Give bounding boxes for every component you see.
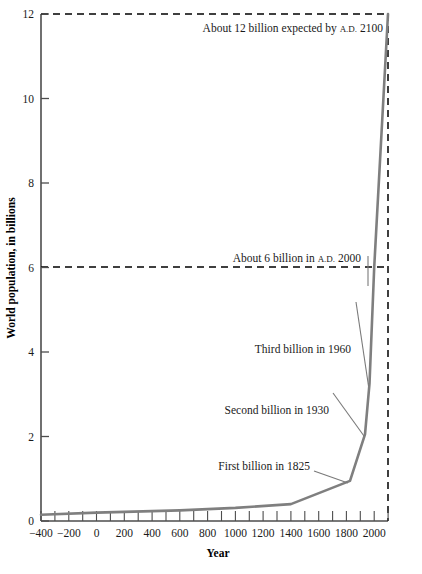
leader-line-third-billion xyxy=(356,302,369,386)
y-axis-ticks xyxy=(41,14,49,521)
annotation-six-billion-suffix: 2000 xyxy=(335,252,361,264)
y-tick-label-6: 6 xyxy=(28,262,34,274)
y-tick-label-4: 4 xyxy=(28,346,34,358)
world-population-curve xyxy=(41,14,388,515)
annotation-twelve-billion-prefix: About 12 billion expected by xyxy=(203,22,340,35)
leader-line-first-billion xyxy=(314,471,348,483)
x-tick-label-1400: 1400 xyxy=(279,527,302,539)
leader-line-second-billion xyxy=(333,393,364,436)
y-tick-label-0: 0 xyxy=(28,515,34,527)
y-tick-label-12: 12 xyxy=(23,8,35,20)
chart-svg: 12 10 8 6 4 2 0 xyxy=(0,0,422,574)
x-tick-label-0: 0 xyxy=(94,527,100,539)
annotation-six-billion-prefix: About 6 billion in xyxy=(233,252,318,264)
y-axis-title: World population, in billions xyxy=(5,197,18,339)
y-tick-label-8: 8 xyxy=(28,177,34,189)
annotation-first-billion: First billion in 1825 xyxy=(218,460,310,472)
x-axis-title: Year xyxy=(207,547,230,559)
x-tick-label-2000: 2000 xyxy=(363,527,386,539)
x-tick-label-400: 400 xyxy=(143,527,161,539)
x-tick-label-1000: 1000 xyxy=(224,527,247,539)
x-tick-label-minus200: −200 xyxy=(57,527,81,539)
x-tick-label-600: 600 xyxy=(171,527,189,539)
x-tick-label-1800: 1800 xyxy=(335,527,358,539)
annotation-twelve-billion-suffix: 2100 xyxy=(357,22,383,34)
x-tick-label-minus400: −400 xyxy=(29,527,53,539)
annotation-third-billion: Third billion in 1960 xyxy=(255,343,351,355)
annotation-six-billion: About 6 billion in A.D. 2000 xyxy=(233,252,362,264)
annotation-second-billion: Second billion in 1930 xyxy=(225,404,330,416)
population-growth-chart: 12 10 8 6 4 2 0 xyxy=(0,0,422,574)
annotation-twelve-billion-era: A.D. xyxy=(340,24,358,34)
x-tick-label-1200: 1200 xyxy=(252,527,275,539)
x-tick-label-200: 200 xyxy=(116,527,134,539)
y-tick-label-10: 10 xyxy=(23,93,35,105)
x-tick-label-800: 800 xyxy=(199,527,217,539)
x-tick-label-1600: 1600 xyxy=(307,527,330,539)
annotation-twelve-billion: About 12 billion expected by A.D. 2100 xyxy=(203,22,384,35)
annotation-six-billion-era: A.D. xyxy=(318,254,336,264)
y-tick-label-2: 2 xyxy=(28,431,34,443)
